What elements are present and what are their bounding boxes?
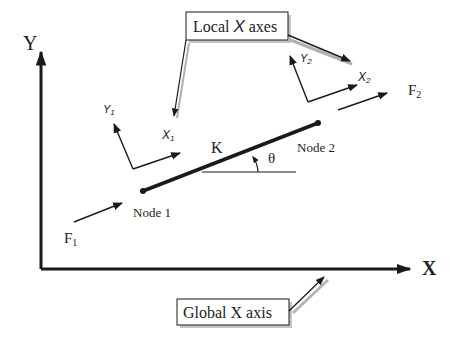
global-axis-callout-text: Global X axis xyxy=(183,304,272,321)
callout-pointer-global-shadow xyxy=(293,280,328,313)
stiffness-label: K xyxy=(211,139,223,156)
forces: F1 F2 xyxy=(64,82,421,248)
spring-element-diagram: Y X Local X axes Y1 X1 Y2 X2 K Node 1 xyxy=(0,0,459,350)
global-axis-callout: Global X axis xyxy=(177,277,328,328)
callout-pointer-global xyxy=(289,277,324,311)
global-x-label: X xyxy=(422,257,437,279)
callout-pointer-x2-shadow xyxy=(288,39,352,64)
force-f1-arrow xyxy=(74,203,122,222)
node1-dot xyxy=(140,188,146,194)
force-f1-label: F1 xyxy=(64,230,77,248)
force-f2-label: F2 xyxy=(408,82,421,100)
callout-pointer-x1-shadow xyxy=(177,43,189,118)
local-frame-node1: Y1 X1 xyxy=(103,103,180,169)
global-y-label: Y xyxy=(23,32,37,54)
local-y2-label: Y2 xyxy=(300,52,312,66)
local-axes-callout: Local X axes xyxy=(174,12,352,118)
local-x1-label: X1 xyxy=(161,128,174,143)
node2-dot xyxy=(315,120,321,126)
local-x2-axis xyxy=(308,85,357,102)
local-x2-label: X2 xyxy=(357,70,371,85)
local-y1-label: Y1 xyxy=(103,103,115,117)
local-y1-axis xyxy=(114,124,133,169)
callout-pointer-x2 xyxy=(288,35,350,61)
node1-label: Node 1 xyxy=(133,205,171,220)
local-x1-axis xyxy=(133,153,180,169)
angle-arc xyxy=(253,157,258,172)
local-axes-callout-text: Local X axes xyxy=(193,17,277,36)
force-f2-arrow xyxy=(338,93,387,110)
angle-label: θ xyxy=(268,150,275,166)
node2-label: Node 2 xyxy=(297,140,335,155)
local-frame-node2: Y2 X2 xyxy=(290,52,371,102)
